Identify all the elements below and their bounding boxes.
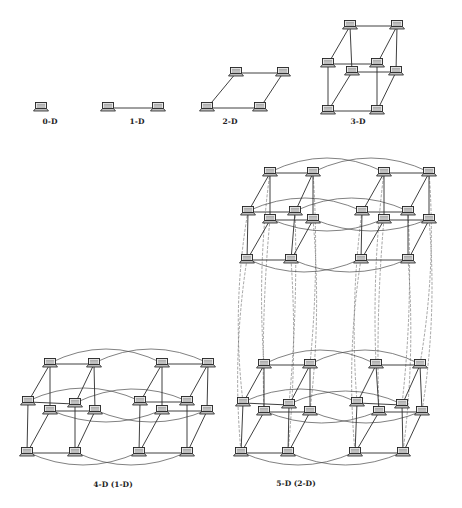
vertical-arc-5d xyxy=(238,211,248,402)
computer-node-icon xyxy=(345,67,360,76)
label-1d: 1-D xyxy=(130,117,145,126)
computer-node-icon xyxy=(413,360,428,369)
computer-node-icon xyxy=(415,407,430,416)
computer-node-icon xyxy=(236,398,251,407)
edge-4d xyxy=(75,411,95,453)
edge-4d xyxy=(27,411,50,453)
computer-node-icon xyxy=(263,168,278,177)
arc-4d xyxy=(50,349,162,363)
computer-node-icon xyxy=(321,106,336,115)
edge-4d xyxy=(139,402,140,453)
computer-node-icon xyxy=(101,103,116,112)
computer-node-icon xyxy=(288,207,303,216)
edge-5d xyxy=(241,403,243,453)
arc-5d xyxy=(264,350,376,364)
computer-node-icon xyxy=(200,406,215,415)
computer-node-icon xyxy=(200,103,215,112)
arc-5d xyxy=(248,198,362,211)
computer-node-icon xyxy=(396,448,411,457)
computer-node-icon xyxy=(281,448,296,457)
computer-node-icon xyxy=(390,21,405,30)
computer-node-icon xyxy=(88,406,103,415)
edge-5d xyxy=(408,220,429,260)
edge-5d xyxy=(361,212,362,260)
arc-5d xyxy=(270,158,384,172)
computer-node-icon xyxy=(68,399,83,408)
computer-node-icon xyxy=(355,207,370,216)
computer-node-icon xyxy=(133,397,148,406)
arc-4d xyxy=(94,349,208,363)
arc-4d xyxy=(75,452,187,465)
computer-node-icon xyxy=(377,215,392,224)
computer-node-icon xyxy=(343,21,358,30)
edge-4d xyxy=(75,364,94,404)
arc-5d xyxy=(288,452,403,465)
computer-node-icon xyxy=(377,168,392,177)
computer-node-icon xyxy=(372,407,387,416)
computer-node-icon xyxy=(151,103,166,112)
arc-5d xyxy=(295,198,408,211)
computer-node-icon xyxy=(132,448,147,457)
vertical-arc-5d xyxy=(378,219,384,411)
edge-4d xyxy=(94,364,95,411)
arc-4d xyxy=(50,410,162,422)
hypercube-diagram: 0-D 1-D 2-D 3-D 4-D (1-D) 5-D (2-D) xyxy=(0,0,462,508)
edge-5d xyxy=(291,220,313,260)
computer-node-icon xyxy=(240,255,255,264)
arc-5d xyxy=(270,219,384,231)
computer-node-icon xyxy=(389,67,404,76)
computer-node-icon xyxy=(180,397,195,406)
arc-4d xyxy=(95,410,207,422)
edge-4d xyxy=(27,402,28,453)
edge-5d xyxy=(291,212,295,260)
computer-node-icon xyxy=(276,68,291,77)
label-0d: 0-D xyxy=(43,117,58,126)
arc-5d xyxy=(313,219,429,231)
computer-node-icon xyxy=(395,400,410,409)
computer-node-icon xyxy=(43,406,58,415)
cube-edges xyxy=(27,26,429,453)
computer-node-icon xyxy=(257,360,272,369)
edge-4d xyxy=(207,364,208,411)
edge-4d xyxy=(187,411,207,453)
computer-node-icon xyxy=(354,255,369,264)
computer-node-icon xyxy=(370,59,385,68)
computer-node-icon xyxy=(306,168,321,177)
edge-3d xyxy=(396,26,397,72)
edge-5d xyxy=(355,403,357,453)
computer-node-icon xyxy=(229,68,244,77)
label-4d: 4-D (1-D) xyxy=(93,480,132,489)
computer-node-icon xyxy=(257,407,272,416)
edge-3d xyxy=(350,26,352,72)
vertical-arc-5d xyxy=(420,172,431,364)
label-3d: 3-D xyxy=(351,117,366,126)
arc-5d xyxy=(241,452,355,465)
computer-node-icon xyxy=(253,103,268,112)
vertical-arc-5d xyxy=(310,219,317,411)
computer-node-icon xyxy=(155,359,170,368)
computer-node-icon xyxy=(401,207,416,216)
edge-5d xyxy=(420,365,422,412)
edge-5d xyxy=(241,412,264,453)
edge-5d xyxy=(247,220,270,260)
label-5d: 5-D (2-D) xyxy=(276,479,315,488)
computer-node-icon xyxy=(350,398,365,407)
arc-5d xyxy=(310,350,420,364)
computer-node-icon xyxy=(369,360,384,369)
vertical-arc-5d xyxy=(262,172,270,364)
arc-5d xyxy=(310,411,422,423)
label-2d: 2-D xyxy=(223,117,238,126)
edge-5d xyxy=(247,212,248,260)
computer-node-icon xyxy=(303,407,318,416)
computer-node-icon xyxy=(282,400,297,409)
arc-4d xyxy=(27,452,139,465)
computer-node-icon xyxy=(284,255,299,264)
computer-node-icon xyxy=(321,59,336,68)
edge-5d xyxy=(403,412,422,453)
edge-5d xyxy=(288,412,310,453)
computer-node-icon xyxy=(180,448,195,457)
computer-node-icon xyxy=(34,103,49,112)
vertical-arc-5d xyxy=(403,259,411,452)
vertical-arc-5d xyxy=(422,219,432,411)
arc-5d xyxy=(247,259,361,272)
